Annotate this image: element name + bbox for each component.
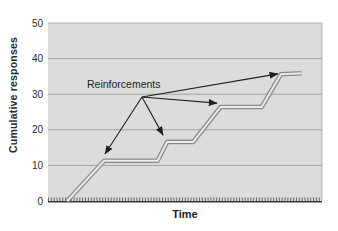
- cumulative-record-figure: 01020304050 Cumulative responses Time Re…: [0, 0, 338, 231]
- chart-canvas: 01020304050: [0, 0, 338, 231]
- y-tick-label-0: 0: [37, 196, 43, 207]
- y-tick-label-10: 10: [32, 160, 44, 171]
- y-tick-label-20: 20: [32, 124, 44, 135]
- y-tick-label-40: 40: [32, 53, 44, 64]
- reinforcements-label: Reinforcements: [87, 78, 161, 90]
- y-tick-label-50: 50: [32, 18, 44, 29]
- x-axis-title: Time: [48, 208, 322, 220]
- y-tick-label-30: 30: [32, 89, 44, 100]
- y-axis-title: Cumulative responses: [6, 36, 20, 154]
